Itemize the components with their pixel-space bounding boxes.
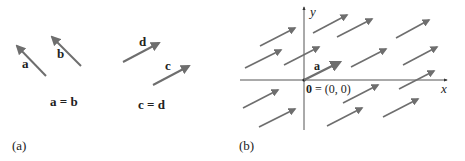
caption-a-text: (a) bbox=[12, 138, 26, 153]
equivalent-vector-arrow bbox=[243, 90, 278, 108]
vector-label-a: a bbox=[22, 56, 29, 71]
equivalent-vector-arrow bbox=[383, 99, 418, 117]
equation-c-equals-d: c = d bbox=[138, 97, 166, 112]
equivalent-vector-arrow bbox=[337, 19, 372, 37]
vector-arrow-a-at-origin bbox=[304, 62, 340, 80]
caption-b: (b) bbox=[239, 138, 254, 153]
y-axis-label: y bbox=[308, 4, 316, 19]
vector-diagram: abdc a = b c = d (a) y x a 0 = (0, 0) (b… bbox=[0, 0, 465, 161]
panel-b bbox=[240, 7, 447, 130]
origin-label: 0 = (0, 0) bbox=[306, 82, 351, 96]
vector-arrow-c bbox=[153, 66, 189, 85]
equivalent-vector-arrow bbox=[260, 28, 295, 46]
equivalent-vector-arrow bbox=[313, 15, 347, 33]
equivalent-vector-arrow bbox=[351, 49, 386, 67]
equivalent-vector-arrow bbox=[403, 47, 437, 65]
x-axis-label: x bbox=[440, 81, 447, 96]
origin-coords: = (0, 0) bbox=[312, 82, 351, 96]
equivalent-vector-arrow bbox=[259, 109, 295, 127]
equivalent-vector-arrow bbox=[245, 50, 281, 68]
panel-a: abdc bbox=[17, 34, 189, 85]
equation-a-equals-b: a = b bbox=[50, 94, 78, 109]
equivalent-vector-arrow bbox=[327, 108, 362, 126]
caption-a: (a) bbox=[12, 138, 26, 153]
vector-label-d: d bbox=[139, 34, 147, 49]
vector-label-c: c bbox=[165, 58, 171, 73]
equivalent-vector-arrow bbox=[396, 20, 429, 38]
arrow-a-label: a bbox=[314, 59, 320, 73]
vector-label-b: b bbox=[57, 46, 64, 61]
